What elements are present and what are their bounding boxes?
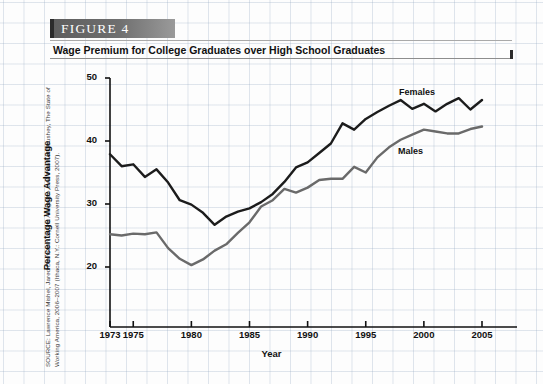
series-line-males [110, 127, 482, 266]
y-tick-label-50: 50 [71, 71, 97, 82]
chart-plot-area [0, 0, 543, 384]
x-tick-label-1985: 1985 [230, 329, 270, 340]
x-tick-label-2005: 2005 [462, 329, 502, 340]
x-tick-label-1995: 1995 [346, 329, 386, 340]
x-tick-label-1990: 1990 [288, 329, 328, 340]
x-axis-title: Year [0, 348, 543, 359]
x-tick-label-1980: 1980 [171, 329, 211, 340]
y-tick-label-40: 40 [71, 134, 97, 145]
x-tick-label-2000: 2000 [404, 329, 444, 340]
series-line-females [110, 98, 482, 225]
series-label-females: Females [399, 87, 435, 97]
x-tick-label-1975: 1975 [113, 329, 153, 340]
series-label-males: Males [398, 146, 423, 156]
line-chart: Percentage Wage Advantage Year 203040501… [0, 0, 543, 384]
y-axis-title: Percentage Wage Advantage [41, 126, 52, 286]
y-tick-label-30: 30 [71, 197, 97, 208]
y-tick-label-20: 20 [71, 260, 97, 271]
